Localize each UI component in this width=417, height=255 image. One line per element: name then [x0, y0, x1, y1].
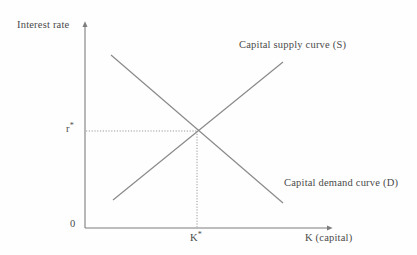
equilibrium-capital-label: K*	[190, 233, 202, 244]
capital-supply-curve	[113, 62, 283, 200]
diagram-canvas	[0, 0, 417, 255]
origin-label: 0	[70, 219, 75, 230]
equilibrium-interest-rate-label: r*	[66, 124, 74, 135]
x-axis-label: K (capital)	[305, 233, 352, 244]
supply-demand-diagram: Interest rate K (capital) 0 r* K* Capita…	[0, 0, 417, 255]
equilibrium-capital-base: K	[190, 232, 198, 243]
capital-supply-curve-label: Capital supply curve (S)	[239, 40, 346, 51]
y-axis-label: Interest rate	[17, 20, 69, 31]
equilibrium-rate-star: *	[70, 121, 74, 130]
capital-demand-curve-label: Capital demand curve (D)	[284, 178, 398, 189]
equilibrium-capital-star: *	[198, 230, 202, 239]
